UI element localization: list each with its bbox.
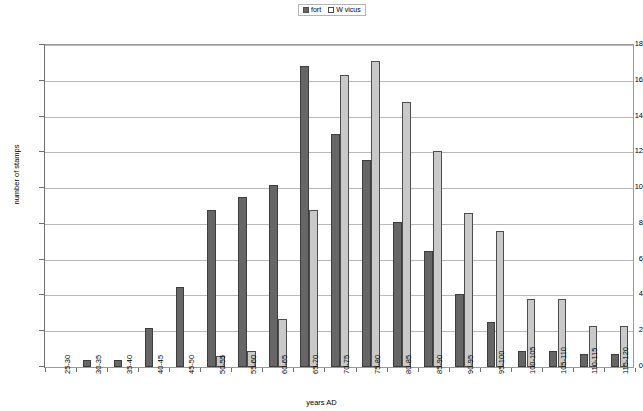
- legend-swatch-w-vicus: [328, 7, 334, 13]
- x-tick-label: 100-105: [529, 346, 537, 374]
- x-tick-label: 50-55: [219, 355, 227, 374]
- bar-fort: [362, 160, 371, 368]
- bar-w-vicus: [433, 151, 442, 367]
- y-tick-mark: [39, 151, 44, 152]
- bar-group: [169, 45, 200, 367]
- bar-fort: [176, 287, 185, 368]
- x-tick-mark: [76, 368, 77, 372]
- bar-fort: [269, 185, 278, 367]
- y-tick-mark: [39, 223, 44, 224]
- x-tick-mark: [45, 368, 46, 372]
- y-tick-mark: [39, 366, 44, 367]
- x-tick-label: 105-110: [560, 347, 568, 374]
- bar-group: [449, 45, 480, 367]
- bar-w-vicus: [371, 61, 380, 367]
- bar-group: [480, 45, 511, 367]
- y-axis-title: number of stamps: [12, 115, 21, 235]
- y-tick-mark: [39, 187, 44, 188]
- bar-group: [604, 45, 635, 367]
- x-tick-mark: [200, 368, 201, 372]
- bar-w-vicus: [309, 210, 318, 367]
- bar-fort: [145, 328, 154, 367]
- bar-group: [542, 45, 573, 367]
- x-tick-mark: [635, 368, 636, 372]
- x-tick-label: 65-70: [312, 355, 320, 374]
- legend-item-w-vicus: W vicus: [328, 6, 361, 14]
- bar-fort: [331, 134, 340, 367]
- bars-layer: [45, 45, 633, 367]
- bar-group: [76, 45, 107, 367]
- x-tick-mark: [604, 368, 605, 372]
- bar-group: [262, 45, 293, 367]
- bar-group: [418, 45, 449, 367]
- x-tick-label: 115-120: [622, 347, 630, 374]
- bar-w-vicus: [464, 213, 473, 367]
- x-tick-label: 95-100: [498, 351, 506, 374]
- x-tick-mark: [107, 368, 108, 372]
- x-tick-mark: [387, 368, 388, 372]
- x-tick-mark: [480, 368, 481, 372]
- x-tick-label: 25-30: [64, 355, 72, 374]
- y-tick-mark: [39, 44, 44, 45]
- x-tick-mark: [169, 368, 170, 372]
- y-tick-mark: [39, 259, 44, 260]
- y-tick-mark: [39, 116, 44, 117]
- legend-item-fort: fort: [303, 6, 321, 14]
- bar-fort: [238, 197, 247, 367]
- x-tick-label: 45-50: [188, 355, 196, 374]
- legend-label-fort: fort: [311, 6, 321, 14]
- bar-fort: [300, 66, 309, 367]
- bar-group: [324, 45, 355, 367]
- bar-fort: [518, 351, 527, 367]
- bar-fort: [487, 322, 496, 367]
- x-tick-mark: [262, 368, 263, 372]
- x-tick-label: 35-40: [126, 355, 134, 374]
- chart-legend: fort W vicus: [298, 4, 366, 16]
- x-axis-title: years AD: [0, 398, 643, 407]
- x-tick-mark: [138, 368, 139, 372]
- bar-group: [138, 45, 169, 367]
- x-tick-label: 40-45: [157, 355, 165, 374]
- bar-fort: [455, 294, 464, 367]
- x-tick-mark: [356, 368, 357, 372]
- bar-group: [293, 45, 324, 367]
- bar-fort: [549, 351, 558, 367]
- x-tick-mark: [542, 368, 543, 372]
- x-tick-mark: [418, 368, 419, 372]
- bar-group: [231, 45, 262, 367]
- bar-fort: [114, 360, 123, 367]
- y-tick-mark: [39, 294, 44, 295]
- x-tick-mark: [573, 368, 574, 372]
- bar-fort: [207, 210, 216, 367]
- bar-fort: [393, 222, 402, 367]
- legend-label-w-vicus: W vicus: [336, 6, 361, 14]
- x-tick-label: 70-75: [343, 355, 351, 374]
- y-tick-mark: [39, 80, 44, 81]
- x-tick-label: 85-90: [436, 355, 444, 374]
- y-tick-mark: [39, 330, 44, 331]
- bar-fort: [83, 360, 92, 367]
- bar-group: [387, 45, 418, 367]
- bar-fort: [611, 354, 620, 367]
- x-tick-label: 30-35: [95, 355, 103, 374]
- x-tick-label: 110-115: [591, 348, 599, 374]
- legend-swatch-fort: [303, 7, 309, 13]
- bar-group: [573, 45, 604, 367]
- x-tick-mark: [293, 368, 294, 372]
- bar-w-vicus: [340, 75, 349, 367]
- x-tick-mark: [511, 368, 512, 372]
- x-tick-mark: [449, 368, 450, 372]
- bar-w-vicus: [402, 102, 411, 367]
- bar-fort: [580, 354, 589, 367]
- x-tick-label: 75-80: [374, 355, 382, 374]
- bar-group: [45, 45, 76, 367]
- bar-group: [200, 45, 231, 367]
- bar-group: [107, 45, 138, 367]
- bar-group: [356, 45, 387, 367]
- x-tick-label: 90-95: [467, 355, 475, 374]
- bar-w-vicus: [496, 231, 505, 367]
- x-tick-label: 60-65: [281, 355, 289, 374]
- x-tick-mark: [231, 368, 232, 372]
- bar-fort: [424, 251, 433, 367]
- x-tick-label: 55-60: [250, 355, 258, 374]
